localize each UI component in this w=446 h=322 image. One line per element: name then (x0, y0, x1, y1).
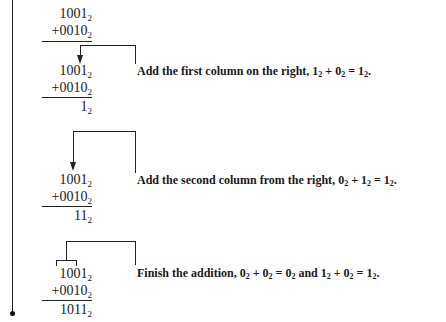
step3-addend1: 10012 (30, 266, 92, 282)
step1-addend2: +00102 (30, 80, 92, 96)
step1-description: Add the first column on the right, 12 + … (137, 64, 371, 79)
step2-result: 112 (30, 208, 92, 224)
step1-addend1: 10012 (30, 63, 92, 79)
left-margin-line (12, 0, 13, 312)
end-bullet (10, 311, 15, 316)
problem-sum-rule (42, 41, 92, 42)
step3-equation: 02 + 02 = 02 and 12 + 02 = 12. (240, 266, 380, 280)
step2-description: Add the second column from the right, 02… (137, 173, 397, 188)
down-arrow-icon (70, 162, 76, 171)
step1-result: 12 (30, 99, 92, 115)
step3-column-bracket (56, 260, 77, 261)
step3-result: 10112 (30, 302, 92, 318)
step3-description: Finish the addition, 02 + 02 = 02 and 12… (137, 266, 379, 281)
step1-equation: 12 + 02 = 12. (312, 64, 371, 78)
step3-bracket-top (66, 241, 136, 242)
problem-addend2: +00102 (30, 23, 92, 39)
problem-addend1: 10012 (30, 6, 92, 22)
step3-bracket-right (135, 241, 136, 265)
step2-addend2: +00102 (30, 189, 92, 205)
step2-addend1: 10012 (30, 172, 92, 188)
step3-bracket-stem (66, 241, 67, 261)
step2-bracket-top (73, 131, 136, 132)
step3-sum-rule (42, 300, 92, 301)
step2-bracket-right (135, 131, 136, 173)
step2-equation: 02 + 12 = 12. (338, 173, 397, 187)
step1-sum-rule (42, 97, 92, 98)
step1-bracket-right (135, 45, 136, 64)
step1-bracket-top (80, 45, 136, 46)
step3-addend2: +00102 (30, 283, 92, 299)
step2-sum-rule (42, 206, 92, 207)
